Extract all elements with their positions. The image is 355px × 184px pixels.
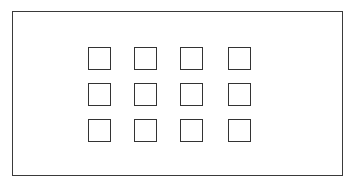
grid-square-r2c1 bbox=[88, 83, 111, 106]
outer-rectangle bbox=[12, 11, 343, 176]
grid-square-r3c3 bbox=[180, 119, 203, 142]
grid-square-r1c3 bbox=[180, 47, 203, 70]
grid-square-r2c2 bbox=[134, 83, 157, 106]
grid-square-r3c1 bbox=[88, 119, 111, 142]
grid-square-r3c4 bbox=[228, 119, 251, 142]
grid-square-r2c4 bbox=[228, 83, 251, 106]
grid-square-r2c3 bbox=[180, 83, 203, 106]
grid-square-r1c1 bbox=[88, 47, 111, 70]
grid-square-r1c4 bbox=[228, 47, 251, 70]
grid-square-r1c2 bbox=[134, 47, 157, 70]
square-grid bbox=[88, 47, 251, 142]
diagram-canvas bbox=[0, 0, 355, 184]
grid-square-r3c2 bbox=[134, 119, 157, 142]
